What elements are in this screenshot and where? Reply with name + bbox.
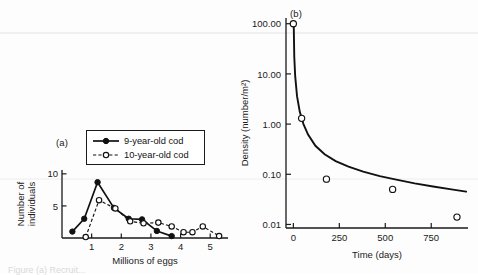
chart-b-axes bbox=[286, 18, 468, 228]
datapoint-series-2 bbox=[96, 197, 101, 202]
y-tick-label: 10.00 bbox=[257, 69, 281, 80]
x-axis-title: Time (days) bbox=[352, 249, 402, 260]
y-tick-label: 10 bbox=[47, 168, 58, 179]
chart-panel-b: (b) 02505007500.010.101.0010.00100.00Tim… bbox=[228, 0, 478, 273]
datapoint-series-2 bbox=[127, 219, 132, 224]
datapoint-series-1 bbox=[169, 233, 174, 238]
x-tick-label: 750 bbox=[423, 232, 439, 243]
datapoint-series-2 bbox=[200, 224, 205, 229]
y-axis-title-line-2: individuals bbox=[26, 182, 37, 227]
chart-b-fit-curve bbox=[294, 24, 466, 192]
y-axis-title-line-1: Number of bbox=[15, 181, 26, 226]
legend-key-solid-filled-circle bbox=[92, 135, 120, 147]
legend-item-10-year-old-cod: 10-year-old cod bbox=[92, 148, 199, 162]
datapoint-series-2 bbox=[83, 234, 88, 239]
datapoint-series-2 bbox=[216, 233, 221, 238]
y-tick-label: 0.01 bbox=[263, 219, 282, 230]
datapoint-series-1 bbox=[82, 216, 87, 221]
legend-label-series-2: 10-year-old cod bbox=[124, 149, 189, 161]
x-tick-label: 2 bbox=[119, 241, 124, 252]
datapoint-series-1 bbox=[70, 229, 75, 234]
datapoint-series-2 bbox=[169, 224, 174, 229]
chart-a-labels: 12345510Millions of eggsNumber ofindivid… bbox=[15, 168, 213, 266]
panel-a-label: (a) bbox=[56, 137, 68, 148]
series-line-2 bbox=[86, 200, 219, 237]
x-tick-label: 5 bbox=[208, 241, 213, 252]
datapoint-density bbox=[323, 176, 329, 182]
chart-panel-a: (a) 9-year-old cod 10-year-old cod 1234 bbox=[0, 110, 235, 273]
x-tick-label: 4 bbox=[178, 241, 183, 252]
legend-panel-a: 9-year-old cod 10-year-old cod bbox=[86, 130, 205, 165]
chart-b-plot: 02505007500.010.101.0010.00100.00Time (d… bbox=[228, 0, 478, 273]
x-tick-label: 1 bbox=[89, 241, 94, 252]
datapoint-series-2 bbox=[141, 221, 146, 226]
y-axis-title: Density (number/m²) bbox=[239, 80, 250, 167]
x-tick-label: 250 bbox=[331, 232, 347, 243]
legend-key-dashed-open-circle bbox=[92, 149, 120, 161]
datapoint-density bbox=[390, 186, 396, 192]
datapoint-series-1 bbox=[154, 228, 159, 233]
figure-caption: Figure (a) Recruit... bbox=[8, 265, 308, 275]
y-tick-label: 1.00 bbox=[263, 119, 282, 130]
chart-b-datapoints bbox=[290, 21, 460, 221]
panel-b-label: (b) bbox=[290, 8, 302, 19]
datapoint-series-2 bbox=[156, 220, 161, 225]
datapoint-density bbox=[299, 115, 305, 121]
datapoint-series-1 bbox=[95, 179, 100, 184]
y-tick-label: 100.00 bbox=[252, 18, 281, 29]
x-tick-label: 0 bbox=[291, 232, 296, 243]
datapoint-density bbox=[454, 214, 460, 220]
chart-a-series bbox=[70, 179, 222, 239]
x-tick-label: 3 bbox=[148, 241, 153, 252]
fit-curve-path bbox=[294, 24, 466, 192]
datapoint-density bbox=[290, 21, 296, 27]
datapoint-series-2 bbox=[190, 230, 195, 235]
y-tick-label: 0.10 bbox=[263, 169, 282, 180]
datapoint-series-2 bbox=[113, 206, 118, 211]
x-tick-label: 500 bbox=[377, 232, 393, 243]
legend-label-series-1: 9-year-old cod bbox=[124, 135, 183, 147]
datapoint-series-2 bbox=[181, 230, 186, 235]
y-tick-label: 5 bbox=[53, 201, 58, 212]
legend-item-9-year-old-cod: 9-year-old cod bbox=[92, 134, 199, 148]
